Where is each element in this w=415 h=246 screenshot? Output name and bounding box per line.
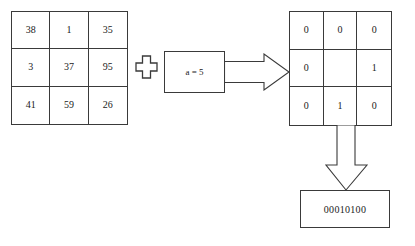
- matrix-cell: 0: [290, 87, 324, 125]
- matrix-cell: 59: [50, 87, 88, 124]
- arrow-down-icon: [325, 125, 369, 191]
- matrix-cell: 3: [12, 49, 50, 86]
- matrix-cell-empty: [324, 50, 358, 88]
- matrix-cell: 1: [50, 12, 88, 49]
- matrix-cell: 37: [50, 49, 88, 86]
- diagram-canvas: 38 1 35 3 37 95 41 59 26 a = 5 0 0 0 0 1…: [0, 0, 415, 246]
- matrix-cell: 1: [357, 50, 391, 88]
- matrix-cell: 35: [89, 12, 127, 49]
- matrix-cell: 38: [12, 12, 50, 49]
- parameter-box: a = 5: [164, 51, 225, 93]
- matrix-cell: 0: [290, 50, 324, 88]
- matrix-cell: 0: [357, 87, 391, 125]
- binary-threshold-matrix: 0 0 0 0 1 0 1 0: [289, 11, 392, 126]
- matrix-cell: 41: [12, 87, 50, 124]
- matrix-cell: 26: [89, 87, 127, 124]
- pixel-value-matrix: 38 1 35 3 37 95 41 59 26: [11, 11, 128, 125]
- matrix-cell: 0: [324, 12, 358, 50]
- result-bitstring: 00010100: [324, 204, 366, 215]
- arrow-right-icon: [224, 53, 290, 91]
- matrix-cell: 95: [89, 49, 127, 86]
- matrix-cell: 1: [324, 87, 358, 125]
- parameter-label: a = 5: [185, 67, 203, 77]
- matrix-cell: 0: [357, 12, 391, 50]
- matrix-cell: 0: [290, 12, 324, 50]
- plus-icon: [135, 55, 158, 79]
- result-box: 00010100: [300, 190, 390, 228]
